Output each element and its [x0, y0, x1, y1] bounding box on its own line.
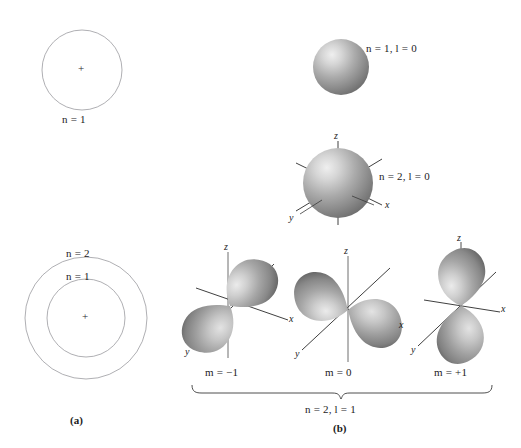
axis-label-y-2s: y: [289, 212, 293, 223]
axis-label-x-m-plus1: x: [501, 303, 505, 314]
panel-a-shell-diagram: [25, 30, 147, 379]
orbital-figure: + n = 1 + n = 2 n = 1 (a) n = 1, l = 0 n…: [0, 0, 521, 448]
nucleus-plus-top: +: [78, 62, 84, 74]
orbital-2s-group: [296, 141, 382, 225]
shell-label-n1-top: n = 1: [62, 113, 86, 125]
axis-label-y-m-zero: y: [295, 348, 299, 359]
orbital-2p-m-minus1-group: [173, 248, 288, 364]
axis-label-y-m-minus1: y: [185, 346, 189, 357]
lobe-upper-m-plus1: [436, 246, 488, 308]
group-brace: [192, 385, 492, 399]
panel-b-caption: (b): [333, 422, 346, 434]
orbital-m-zero-label: m = 0: [325, 366, 352, 378]
orbital-m-minus1-label: m = −1: [205, 366, 238, 378]
axis-label-x-2s: x: [385, 199, 389, 210]
axis-label-z-m-plus1: z: [457, 232, 461, 243]
orbital-1s-sphere: [313, 39, 369, 95]
axis-label-y-m-plus1: y: [411, 344, 415, 355]
axis-label-x-m-minus1: x: [289, 313, 293, 324]
axis-label-z-m-minus1: z: [224, 241, 228, 252]
panel-a-caption: (a): [70, 414, 83, 426]
orbital-2p-m-zero-group: [287, 256, 409, 362]
nucleus-plus-bottom: +: [82, 310, 88, 322]
orbital-m-plus1-label: m = +1: [434, 366, 467, 378]
orbital-2s-sphere: [303, 148, 373, 218]
orbital-2p-m-plus1-group: [418, 242, 500, 366]
axis-label-z-2s: z: [334, 130, 338, 141]
axis-label-x-m-zero: x: [399, 319, 403, 330]
axis-label-z-m-zero: z: [344, 245, 348, 256]
orbital-1s-label: n = 1, l = 0: [366, 42, 417, 54]
orbital-2s-label: n = 2, l = 0: [379, 170, 430, 182]
shell-label-n1-inner: n = 1: [66, 270, 90, 282]
lobe-lower-m-plus1: [434, 304, 486, 366]
lobe-left-m-zero: [287, 266, 356, 329]
orbital-1s-group: [313, 39, 369, 95]
shell-label-n2-outer: n = 2: [66, 247, 90, 259]
group-brace-label: n = 2, l = 1: [305, 403, 356, 415]
